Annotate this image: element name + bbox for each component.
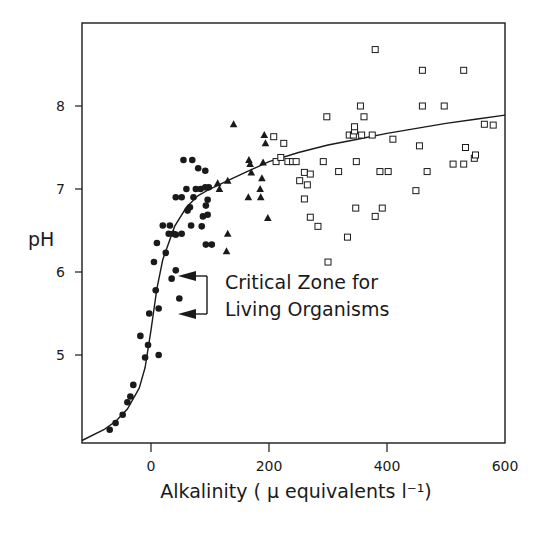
data-point: [359, 132, 365, 138]
data-point: [172, 267, 179, 274]
data-point: [151, 259, 158, 266]
data-point: [245, 156, 253, 163]
y-tick-label: 6: [56, 264, 65, 280]
data-point: [278, 154, 284, 160]
data-point: [461, 161, 467, 167]
critical-zone-annotation: Critical Zone for Living Organisms: [178, 271, 389, 320]
data-point: [203, 202, 210, 209]
data-point: [204, 211, 211, 218]
data-point: [260, 131, 268, 138]
x-tick-label: 200: [256, 458, 283, 474]
ph-alkalinity-chart: 8 7 6 5 pH 0 200 400 600 Alkalinity ( μ …: [0, 0, 544, 533]
data-point: [187, 204, 194, 211]
data-point: [419, 103, 425, 109]
data-point: [424, 169, 430, 175]
data-point: [315, 223, 321, 229]
data-point: [461, 67, 467, 73]
data-point: [172, 231, 179, 238]
data-point: [167, 222, 174, 229]
data-point: [307, 171, 313, 177]
data-point: [198, 223, 205, 230]
data-point: [490, 122, 496, 128]
data-point: [353, 159, 359, 165]
data-point: [297, 178, 303, 184]
data-point: [245, 193, 253, 200]
data-point: [195, 165, 202, 172]
data-point: [385, 169, 391, 175]
data-point: [379, 205, 385, 211]
data-point: [189, 157, 196, 164]
data-point: [112, 420, 119, 427]
data-point: [304, 182, 310, 188]
data-point: [390, 136, 396, 142]
data-point: [224, 230, 232, 237]
arrow-left-icon: [178, 271, 196, 281]
data-point: [258, 174, 266, 181]
data-point: [344, 234, 350, 240]
data-point: [377, 169, 383, 175]
data-point: [180, 157, 187, 164]
data-point: [203, 241, 210, 248]
data-point: [214, 179, 222, 186]
data-point: [155, 305, 162, 312]
data-point: [106, 426, 113, 433]
data-point: [369, 132, 375, 138]
y-tick-label: 5: [56, 347, 65, 363]
data-point: [145, 342, 152, 349]
data-point: [353, 205, 359, 211]
annotation-line-2: Living Organisms: [225, 298, 389, 320]
data-point: [271, 134, 277, 140]
data-point: [152, 287, 159, 294]
data-points: [106, 47, 496, 433]
y-axis-title: pH: [28, 228, 54, 250]
data-point: [441, 103, 447, 109]
data-point: [119, 411, 126, 418]
data-point: [419, 67, 425, 73]
data-point: [160, 222, 167, 229]
data-point: [230, 120, 238, 127]
data-point: [259, 158, 267, 165]
data-point: [293, 159, 299, 165]
data-point: [357, 103, 363, 109]
y-tick-label: 7: [56, 181, 65, 197]
x-axis-title: Alkalinity ( μ equivalents l⁻¹): [160, 480, 431, 502]
data-point: [413, 188, 419, 194]
data-point: [206, 184, 213, 191]
y-tick-label: 8: [56, 98, 65, 114]
x-tick-label: 400: [374, 458, 401, 474]
data-point: [301, 196, 307, 202]
data-point: [248, 168, 256, 175]
data-point: [162, 250, 169, 257]
data-point: [301, 169, 307, 175]
data-point: [168, 275, 175, 282]
data-point: [473, 152, 479, 158]
data-point: [208, 241, 215, 248]
data-point: [361, 114, 367, 120]
x-tick-label: 0: [147, 458, 156, 474]
plot-frame: [82, 23, 505, 443]
data-point: [142, 354, 149, 361]
data-point: [264, 214, 272, 221]
data-point: [124, 399, 131, 406]
data-point: [462, 145, 468, 151]
data-point: [130, 382, 137, 389]
data-point: [172, 194, 179, 201]
data-point: [178, 194, 185, 201]
data-point: [481, 121, 487, 127]
data-point: [450, 161, 456, 167]
data-point: [154, 240, 161, 247]
data-point: [188, 222, 195, 229]
data-point: [307, 214, 313, 220]
data-point: [202, 167, 209, 174]
data-point: [176, 295, 183, 302]
data-point: [416, 143, 422, 149]
data-point: [325, 259, 331, 265]
data-point: [324, 114, 330, 120]
data-point: [127, 393, 134, 400]
data-point: [336, 169, 342, 175]
data-point: [372, 47, 378, 53]
data-point: [372, 213, 378, 219]
data-point: [183, 186, 190, 193]
y-axis: 8 7 6 5 pH: [28, 98, 82, 363]
data-point: [204, 196, 211, 203]
